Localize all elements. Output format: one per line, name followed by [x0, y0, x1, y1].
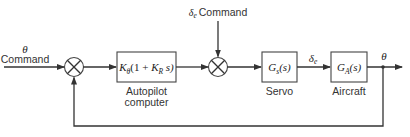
block-diagram: θ Command Kθ(1 + KR s) Autopilot compute… — [0, 0, 410, 137]
summing-junction-1 — [65, 58, 84, 77]
servo-block: Gs(s) Servo — [262, 52, 297, 97]
servo-caption: Servo — [266, 85, 294, 97]
theta-output-label: θ — [381, 50, 387, 62]
theta-command-label: Command — [1, 53, 50, 65]
aircraft-caption: Aircraft — [332, 85, 365, 97]
autopilot-block: Kθ(1 + KR s) Autopilot computer — [117, 52, 176, 108]
autopilot-caption-line2: computer — [125, 96, 169, 108]
summing-junction-2 — [209, 58, 228, 77]
delta-e-signal-label: δe — [309, 52, 318, 66]
aircraft-block: GA(s) Aircraft — [331, 52, 367, 97]
delta-e-command-text: δeCommand — [189, 6, 248, 20]
theta-command-input: θ Command — [1, 43, 64, 67]
delta-e-command-input: δeCommand — [189, 6, 248, 57]
